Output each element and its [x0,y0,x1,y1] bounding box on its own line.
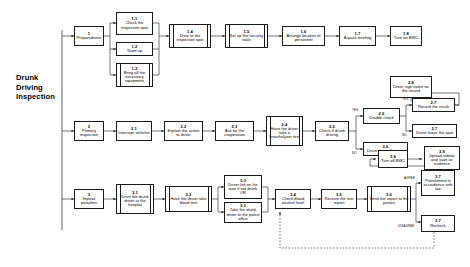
node-label: Turn off BWC [380,159,406,163]
node-label: Arrange location of personnel [283,34,324,42]
edge-label-yes-2-6: YES [402,97,408,101]
node-label: Bring all the necessary equipment [117,71,152,84]
node-label: Set up the security tools [226,34,267,42]
node-2-primary-inspection[interactable]: 2 Primary inspection [74,121,104,141]
node-label: Ask for the cooperation [216,129,253,137]
node-label: Preparedness [75,36,102,40]
edge-label-no-2-6: NO [402,133,407,137]
node-2-4-breathalyzer-test[interactable]: 2.4 Have the driver take a breathalyzer … [266,116,303,146]
node-label: Double check [368,116,394,120]
node-3-9-upload-videos-save-as-evidence[interactable]: 3.9 Upload videos and save as evidence [424,146,460,170]
node-3-impose-penalties[interactable]: 3 Impose penalties [74,189,104,209]
node-3-1-drive-drunk-driver-to-hospital[interactable]: 3.1 Drive the drunk driver to the hospit… [116,184,154,214]
edge-label-agree: AGREE [404,176,415,180]
node-3-7-punishment-in-accordance-with-law[interactable]: 3.7 Punishment in accordance with law [421,170,455,196]
node-1-1-check-inspection-spot[interactable]: 1.1 Check the inspection spot [116,12,153,35]
node-2-2-explain-action-to-driver[interactable]: 2.2 Explain the action to driver [164,121,203,141]
node-label: Drive the drunk driver to the hospital [117,195,153,208]
node-3-6-send-report-to-parties[interactable]: 3.6 Send the report to the parties [367,186,411,212]
node-label: Send the report to the parties [368,197,410,205]
node-label: Team up [126,49,143,53]
node-label: Have the driver take blood test [166,197,211,205]
node-label: Intercept vehicles [117,131,151,135]
node-1-5-set-up-security-tools[interactable]: 1.5 Set up the security tools [225,24,268,48]
node-1-4-drive-to-inspection-spot[interactable]: 1.4 Drive to the inspection spot [169,24,211,48]
node-label: A quick briefing [343,36,372,40]
node-label: Turn on BWC [393,36,419,40]
node-3-2-blood-test[interactable]: 3.2 Have the driver take blood test [165,186,212,212]
node-label: Punishment in accordance with law [422,179,454,192]
node-3-4-check-blood-alcohol-level[interactable]: 3.4 Check blood alcohol level [275,189,311,209]
node-1-6-arrange-location-of-personnel[interactable]: 1.6 Arrange location of personnel [282,26,325,46]
node-3-8-turn-off-bwc[interactable]: 3.8 Turn off BWC [378,150,408,168]
node-1-7-quick-briefing[interactable]: 1.7 A quick briefing [339,26,376,46]
node-label: Drive to the inspection spot [170,34,210,42]
flowchart-canvas: Drunk Driving Inspection 1 Preparedness … [0,0,470,267]
node-label: Driver sign name on the record [391,85,431,93]
edge-label-no-2-5: NO [352,151,357,155]
node-2-8-driver-sign-name-on-record[interactable]: 2.8 Driver sign name on the record [390,76,432,98]
node-3-3-take-driver-to-police-office[interactable]: 3.3 Take the drunk driver to the police … [224,202,262,223]
phase-title-line-3: Inspection [16,92,55,102]
node-1-3-bring-equipment[interactable]: 1.3 Bring all the necessary equipment [116,63,153,87]
phase-title-line-1: Drunk [16,73,55,83]
node-label: Check the inspection spot [117,21,152,29]
node-1-8-turn-on-bwc[interactable]: 1.8 Turn on BWC [390,26,422,46]
node-2-7-record-the-result[interactable]: 2.7 Record the result [412,98,455,112]
node-label: Check blood alcohol level [276,197,310,205]
node-or-separator: OR [239,191,247,195]
edge-label-disagree: DISAGREE [398,224,414,228]
node-label: Check if drunk driving [316,129,348,137]
node-label: Impose penalties [75,197,103,205]
node-label: Explain the action to driver [165,129,202,137]
node-3-7-recheck[interactable]: 3.7 Recheck [421,215,455,232]
node-label: Receive the test report [322,197,356,205]
phase-title: Drunk Driving Inspection [16,73,55,102]
node-2-1-intercept-vehicles[interactable]: 2.1 Intercept vehicles [116,121,152,141]
node-label: Primary inspection [75,129,103,137]
phase-title-line-2: Driving [16,83,55,93]
node-2-5-check-if-drunk-driving[interactable]: 2.5 Check if drunk driving [315,121,349,141]
node-2-6-double-check[interactable]: 2.6 Double check [363,108,400,124]
node-label: Record the result [417,105,450,109]
node-3-5-receive-the-test-report[interactable]: 3.5 Receive the test report [321,189,357,209]
node-2-7-driver-leave-the-spot[interactable]: 2.7 Driver leave the spot [412,124,457,138]
node-label: Take the drunk driver to the police offi… [225,208,261,221]
node-label: Have the driver take a breathalyzer test [267,127,302,140]
node-1-2-team-up[interactable]: 1.2 Team up [116,42,153,56]
node-label: Driver leave the spot [415,131,454,135]
node-2-3-ask-for-cooperation[interactable]: 2.3 Ask for the cooperation [215,121,254,141]
node-label: Recheck [429,224,447,228]
edge-label-yes-2-5: YES [352,108,358,112]
node-1-preparedness[interactable]: 1 Preparedness [74,26,104,46]
node-3-3-driver-left-on-his-own[interactable]: 3.3 Driver left on his own if not drunk … [224,175,262,199]
node-label: Upload videos and save as evidence [425,154,459,167]
